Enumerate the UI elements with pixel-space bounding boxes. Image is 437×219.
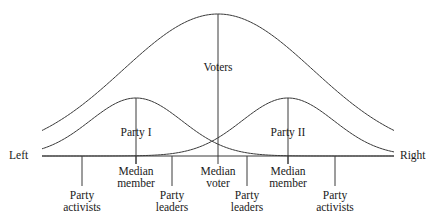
label-median-member-right: Medianmember <box>269 165 307 189</box>
party-one-label: Party I <box>121 127 152 139</box>
label-party-leaders-left: Partyleaders <box>156 189 189 213</box>
label-party-activists-right: Partyactivists <box>316 189 354 213</box>
label-median-member-left-line2: member <box>117 177 155 189</box>
label-party-leaders-right: Partyleaders <box>231 189 264 213</box>
label-party-activists-right-line1: Party <box>316 189 354 201</box>
label-party-activists-left-line1: Party <box>63 189 101 201</box>
label-median-member-right-line2: member <box>269 177 307 189</box>
voters-label: Voters <box>203 62 232 74</box>
axis-right-label: Right <box>400 150 426 162</box>
label-median-voter: Medianvoter <box>200 165 235 189</box>
label-median-member-right-line1: Median <box>269 165 307 177</box>
label-party-leaders-left-line2: leaders <box>156 201 189 213</box>
party-two-label-text: Party II <box>271 126 306 138</box>
party-one-label-text: Party I <box>121 126 152 138</box>
label-party-activists-left-line2: activists <box>63 201 101 213</box>
axis-left-label: Left <box>9 150 28 162</box>
diagram-canvas: VotersParty IParty IIMedianmemberMedianv… <box>0 0 437 219</box>
label-party-activists-right-line2: activists <box>316 201 354 213</box>
voters-label-text: Voters <box>203 61 232 73</box>
label-median-member-left: Medianmember <box>117 165 155 189</box>
party-two-label: Party II <box>271 127 306 139</box>
label-median-voter-line1: Median <box>200 165 235 177</box>
label-party-leaders-right-line1: Party <box>231 189 264 201</box>
label-party-leaders-right-line2: leaders <box>231 201 264 213</box>
label-party-leaders-left-line1: Party <box>156 189 189 201</box>
label-party-activists-left: Partyactivists <box>63 189 101 213</box>
label-median-voter-line2: voter <box>200 177 235 189</box>
label-median-member-left-line1: Median <box>117 165 155 177</box>
